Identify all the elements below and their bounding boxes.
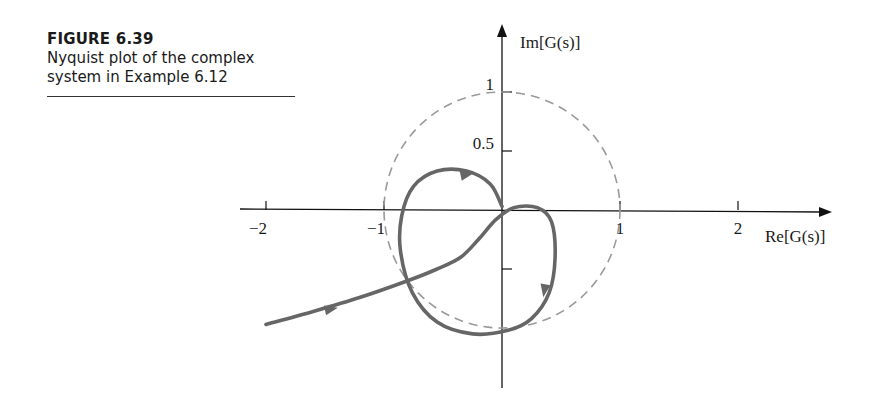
x-tick-label: 2	[734, 219, 743, 238]
x-axis-label: Re[G(s)]	[765, 227, 825, 246]
x-tick-label: 1	[616, 219, 625, 238]
direction-arrows	[324, 168, 550, 315]
y-axis-label: Im[G(s)]	[520, 33, 580, 52]
x-tick-label: −1	[367, 219, 385, 238]
y-tick-label: 0.5	[473, 134, 494, 153]
y-axis-arrow-icon	[497, 24, 507, 37]
x-axis	[240, 209, 822, 212]
y-tick-label: 1	[486, 75, 495, 94]
nyquist-plot: Re[G(s)] Im[G(s)] −2−11210.5	[0, 0, 883, 402]
ticks: −2−11210.5	[249, 75, 742, 269]
x-axis-arrow-icon	[819, 207, 832, 217]
nyquist-curve	[266, 169, 555, 334]
x-tick-label: −2	[249, 219, 267, 238]
